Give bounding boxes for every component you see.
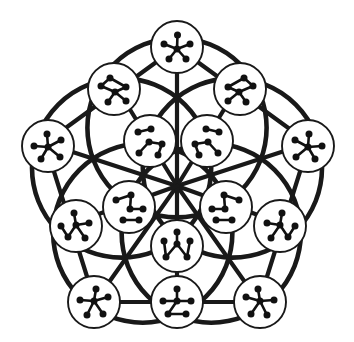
mini-graph-vertex: [38, 156, 45, 163]
mini-graph-vertex: [166, 56, 173, 63]
mini-graph-vertex: [100, 311, 107, 318]
graph-node[interactable]: [151, 220, 203, 272]
graph-node[interactable]: [103, 181, 155, 233]
graph-node[interactable]: [88, 63, 140, 115]
mini-graph-vertex: [165, 311, 172, 318]
mini-graph-vertex: [187, 238, 194, 245]
mini-graph-vertex: [112, 89, 119, 96]
mini-graph-vertex: [163, 254, 170, 261]
mini-graph-vertex: [136, 150, 143, 157]
mini-graph-vertex: [250, 83, 257, 90]
mini-graph-vertex: [209, 206, 216, 213]
mini-graph-vertex: [221, 192, 228, 199]
mini-graph-vertex: [225, 98, 232, 105]
mini-graph-vertex: [159, 141, 166, 148]
mini-graph-vertex: [188, 298, 195, 305]
mini-graph-vertex: [277, 222, 284, 229]
graph-node[interactable]: [200, 181, 252, 233]
graph-node[interactable]: [234, 276, 286, 328]
mini-graph-vertex: [113, 197, 120, 204]
mini-graph-vertex: [65, 234, 72, 241]
mini-graph-vertex: [205, 139, 212, 146]
mini-graph-vertex: [312, 156, 319, 163]
mini-graph-vertex: [93, 286, 100, 293]
mini-graph-vertex: [243, 99, 250, 106]
mini-graph-vertex: [203, 126, 210, 133]
mini-graph-vertex: [192, 141, 199, 148]
mini-graph-vertex: [123, 98, 130, 105]
figure-root: [0, 0, 354, 342]
mini-graph-vertex: [84, 312, 91, 319]
mini-graph-vertex: [105, 294, 112, 301]
mini-graph-vertex: [215, 150, 222, 157]
mini-graph-vertex: [285, 234, 292, 241]
mini-graph-vertex: [306, 131, 313, 138]
graph-node[interactable]: [151, 21, 203, 73]
mini-graph-vertex: [31, 143, 38, 150]
mini-graph-vertex: [174, 32, 181, 39]
mini-graph-vertex: [183, 56, 190, 63]
mini-graph-vertex: [319, 143, 326, 150]
mini-graph-vertex: [293, 154, 300, 161]
graph-diagram: [0, 0, 354, 342]
mini-graph-vertex: [71, 210, 78, 217]
mini-graph-vertex: [82, 235, 89, 242]
mini-graph-vertex: [271, 297, 278, 304]
mini-graph-vertex: [135, 129, 142, 136]
graph-node[interactable]: [124, 115, 176, 167]
mini-graph-vertex: [98, 83, 105, 90]
mini-graph-vertex: [243, 294, 250, 301]
mini-graph-vertex: [91, 298, 98, 305]
mini-graph-vertex: [57, 154, 64, 161]
mini-graph-vertex: [268, 235, 275, 242]
mini-graph-vertex: [120, 217, 127, 224]
graph-node[interactable]: [22, 120, 74, 172]
mini-graph-vertex: [128, 192, 135, 199]
mini-graph-vertex: [45, 144, 52, 151]
mini-graph-vertex: [174, 46, 181, 53]
mini-graph-vertex: [187, 41, 194, 48]
graph-node[interactable]: [50, 200, 102, 252]
mini-graph-vertex: [248, 311, 255, 318]
mini-graph-vertex: [229, 217, 236, 224]
mini-graph-vertex: [264, 220, 271, 227]
mini-graph-vertex: [73, 222, 80, 229]
mini-graph-vertex: [255, 286, 262, 293]
mini-graph-vertex: [196, 152, 203, 159]
mini-graph-vertex: [292, 137, 299, 144]
mini-graph-vertex: [140, 206, 147, 213]
mini-graph-vertex: [174, 241, 181, 248]
mini-graph-vertex: [292, 223, 299, 230]
graph-node[interactable]: [214, 63, 266, 115]
mini-graph-vertex: [213, 217, 220, 224]
mini-graph-vertex: [225, 84, 232, 91]
mini-graph-vertex: [44, 131, 51, 138]
mini-graph-vertex: [148, 126, 155, 133]
mini-graph-vertex: [174, 298, 181, 305]
graph-node[interactable]: [68, 276, 120, 328]
mini-graph-vertex: [146, 139, 153, 146]
mini-graph-vertex: [123, 84, 130, 91]
graph-node[interactable]: [151, 276, 203, 328]
mini-graph-vertex: [222, 206, 229, 213]
graph-node[interactable]: [282, 120, 334, 172]
mini-graph-vertex: [183, 311, 190, 318]
mini-graph-vertex: [107, 75, 114, 82]
mini-graph-vertex: [174, 286, 181, 293]
mini-graph-vertex: [216, 129, 223, 136]
mini-graph-vertex: [86, 220, 93, 227]
mini-graph-vertex: [305, 144, 312, 151]
mini-graph-vertex: [58, 137, 65, 144]
mini-graph-vertex: [155, 152, 162, 159]
mini-graph-vertex: [77, 297, 84, 304]
mini-graph-vertex: [279, 210, 286, 217]
mini-graph-vertex: [105, 99, 112, 106]
graph-node[interactable]: [181, 115, 233, 167]
mini-graph-vertex: [127, 206, 134, 213]
graph-node[interactable]: [254, 200, 306, 252]
mini-graph-vertex: [236, 89, 243, 96]
mini-graph-vertex: [236, 197, 243, 204]
mini-graph-vertex: [160, 298, 167, 305]
mini-graph-vertex: [174, 229, 181, 236]
mini-graph-vertex: [264, 312, 271, 319]
